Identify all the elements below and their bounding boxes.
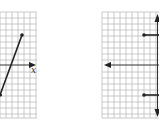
right-x-axis: [104, 62, 159, 68]
x-axis-label: x: [31, 66, 36, 75]
endpoint-dot-icon: [20, 33, 24, 37]
endpoint-dot-icon: [142, 33, 146, 37]
graphs-canvas: [0, 0, 159, 127]
endpoint-dot-icon: [142, 93, 146, 97]
arrow-down-icon: [155, 109, 160, 117]
arrow-left-icon: [104, 62, 111, 68]
